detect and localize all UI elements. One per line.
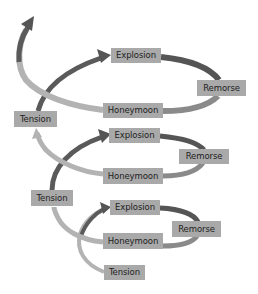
arrow-top-honeymoon-sweep: [19, 30, 103, 110]
arrow-bottom-remorse-to-honeymoon: [163, 236, 197, 246]
label-top-remorse: Remorse: [197, 80, 246, 96]
label-bottom-honeymoon: Honeymoon: [103, 233, 163, 249]
label-top-honeymoon: Honeymoon: [103, 103, 163, 118]
arrow-top-explosion-to-remorse: [161, 57, 219, 80]
label-middle-tension: Tension: [31, 190, 73, 206]
label-top-tension: Tension: [14, 111, 57, 127]
label-top-explosion: Explosion: [111, 48, 161, 63]
label-bottom-tension: Tension: [104, 265, 145, 280]
label-bottom-remorse: Remorse: [172, 221, 221, 237]
arrow-bottom-explosion-to-remorse: [160, 208, 198, 222]
label-middle-remorse: Remorse: [179, 149, 229, 164]
arrow-top-remorse-to-honeymoon: [163, 96, 218, 111]
spiral-arrows: [0, 0, 258, 294]
cycle-of-abuse-spiral-diagram: Explosion Remorse Honeymoon Tension Expl…: [0, 0, 258, 294]
label-middle-explosion: Explosion: [109, 128, 160, 143]
label-bottom-explosion: Explosion: [110, 200, 160, 215]
arrow-middle-explosion-to-remorse: [160, 136, 204, 150]
arrow-middle-remorse-to-honeymoon: [163, 163, 203, 176]
label-middle-honeymoon: Honeymoon: [103, 168, 163, 184]
arrow-middle-tension-to-explosion: [52, 137, 102, 190]
